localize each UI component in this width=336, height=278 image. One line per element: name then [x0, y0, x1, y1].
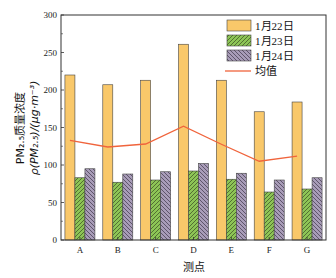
bar-E-1月24日: [236, 173, 246, 240]
x-tick-label: G: [304, 245, 311, 255]
bar-D-1月23日: [189, 171, 199, 240]
bar-A-1月23日: [75, 178, 85, 240]
y-tick-label: 100: [44, 160, 58, 170]
x-tick-label: A: [77, 245, 84, 255]
legend: 1月22日1月23日1月24日均值: [225, 20, 294, 77]
bar-B-1月24日: [123, 174, 133, 240]
svg-text:1月24日: 1月24日: [255, 50, 294, 62]
x-tick-label: D: [190, 245, 197, 255]
y-tick-label: 250: [44, 48, 58, 58]
bar-C-1月22日: [141, 80, 151, 240]
bar-G-1月24日: [312, 178, 322, 240]
bar-F-1月24日: [274, 180, 284, 240]
bar-F-1月23日: [264, 192, 274, 240]
y-axis-title-line2: ρ(PM₂.₅)/(μg·m⁻³): [28, 81, 41, 176]
y-axis-title-line1: PM₂.₅质量浓度: [13, 92, 27, 164]
bar-A-1月22日: [65, 75, 75, 240]
y-tick-label: 50: [48, 198, 58, 208]
bar-B-1月23日: [113, 182, 123, 240]
y-tick-label: 300: [44, 10, 58, 20]
bar-D-1月22日: [179, 44, 189, 240]
y-tick-label: 200: [44, 85, 58, 95]
bar-B-1月22日: [103, 85, 113, 240]
svg-text:1月23日: 1月23日: [255, 35, 294, 47]
pm25-bar-chart: 050100150200250300 ABCDEFG 测点 PM₂.₅质量浓度 …: [0, 0, 336, 278]
bar-G-1月23日: [302, 189, 312, 240]
x-axis-title: 测点: [183, 261, 205, 274]
legend-item-1月23日: 1月23日: [227, 35, 294, 47]
x-tick-label: B: [115, 245, 121, 255]
svg-text:均值: 均值: [255, 65, 277, 77]
bar-A-1月24日: [85, 169, 95, 240]
bar-F-1月22日: [254, 112, 264, 240]
legend-item-均值: 均值: [225, 65, 277, 77]
bar-C-1月23日: [151, 180, 161, 240]
y-tick-label: 0: [53, 235, 58, 245]
legend-item-1月22日: 1月22日: [227, 20, 294, 32]
legend-item-1月24日: 1月24日: [227, 50, 294, 62]
plot-area: [65, 44, 322, 240]
bar-D-1月24日: [199, 164, 209, 241]
bar-E-1月22日: [216, 80, 226, 240]
x-tick-label: E: [229, 245, 235, 255]
y-axis-title: PM₂.₅质量浓度 ρ(PM₂.₅)/(μg·m⁻³): [13, 81, 41, 176]
bar-E-1月23日: [226, 179, 236, 240]
x-tick-label: F: [267, 245, 272, 255]
y-tick-label: 150: [44, 123, 58, 133]
bar-G-1月22日: [292, 102, 302, 240]
x-tick-label: C: [153, 245, 159, 255]
bar-C-1月24日: [161, 172, 171, 240]
svg-text:1月22日: 1月22日: [255, 20, 294, 32]
